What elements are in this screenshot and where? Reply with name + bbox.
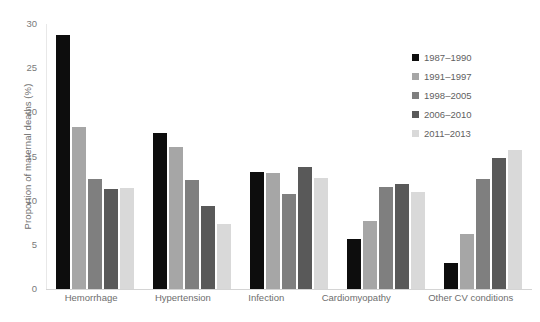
bar[interactable] <box>395 184 409 289</box>
bar[interactable] <box>379 187 393 289</box>
bar[interactable] <box>282 194 296 289</box>
bar[interactable] <box>201 206 215 289</box>
bar[interactable] <box>72 127 86 289</box>
bar[interactable] <box>314 178 328 289</box>
x-axis-tick-label: Infection <box>248 293 284 313</box>
bar[interactable] <box>153 133 167 289</box>
x-axis-tick-label: Other CV conditions <box>428 293 513 313</box>
bar[interactable] <box>460 234 474 289</box>
bar[interactable] <box>476 179 490 289</box>
chart-legend: 1987–19901991–19971998–20052006–20102011… <box>412 48 532 143</box>
x-axis-tick-label: Hypertension <box>155 293 211 313</box>
bar[interactable] <box>120 188 134 289</box>
bar[interactable] <box>508 150 522 289</box>
bar[interactable] <box>250 172 264 289</box>
legend-swatch-icon <box>412 54 419 61</box>
legend-label: 1991–1997 <box>424 71 472 82</box>
bar[interactable] <box>347 239 361 289</box>
legend-swatch-icon <box>412 130 419 137</box>
bar[interactable] <box>266 173 280 289</box>
legend-item[interactable]: 1987–1990 <box>412 48 532 67</box>
y-axis-tick-label: 20 <box>3 107 37 117</box>
bar[interactable] <box>169 147 183 289</box>
bar[interactable] <box>298 167 312 289</box>
bar-group <box>56 24 134 289</box>
bar[interactable] <box>411 192 425 289</box>
legend-swatch-icon <box>412 111 419 118</box>
bar[interactable] <box>185 180 199 289</box>
bar[interactable] <box>363 221 377 289</box>
x-axis-tick-labels: HemorrhageHypertensionInfectionCardiomyo… <box>46 293 532 313</box>
y-axis-tick-label: 15 <box>3 152 37 162</box>
x-axis-tick-label: Cardiomyopathy <box>322 293 391 313</box>
bar[interactable] <box>492 158 506 289</box>
legend-swatch-icon <box>412 92 419 99</box>
legend-swatch-icon <box>412 73 419 80</box>
legend-item[interactable]: 2006–2010 <box>412 105 532 124</box>
legend-label: 2011–2013 <box>424 128 471 139</box>
legend-label: 1987–1990 <box>424 52 472 63</box>
bar[interactable] <box>217 224 231 289</box>
bar-group <box>153 24 231 289</box>
bar[interactable] <box>88 179 102 289</box>
y-axis-tick-label: 30 <box>3 19 37 29</box>
legend-item[interactable]: 1991–1997 <box>412 67 532 86</box>
legend-label: 2006–2010 <box>424 109 472 120</box>
bar-chart: Proportion of maternal deaths (%) 302520… <box>0 0 540 322</box>
x-axis-line <box>46 289 532 290</box>
bar[interactable] <box>104 189 118 289</box>
y-axis-tick-label: 5 <box>3 240 37 250</box>
legend-item[interactable]: 2011–2013 <box>412 124 532 143</box>
legend-item[interactable]: 1998–2005 <box>412 86 532 105</box>
y-axis-tick-label: 10 <box>3 196 37 206</box>
legend-label: 1998–2005 <box>424 90 472 101</box>
bar[interactable] <box>56 35 70 289</box>
bar[interactable] <box>444 263 458 290</box>
bar-group <box>250 24 328 289</box>
y-axis-tick-label: 0 <box>3 284 37 294</box>
y-axis-tick-label: 25 <box>3 63 37 73</box>
x-axis-tick-label: Hemorrhage <box>65 293 118 313</box>
